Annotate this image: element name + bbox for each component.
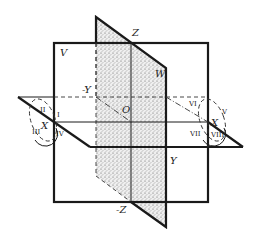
label-y: Y [170, 155, 178, 166]
label-octant-VIII: VIII [210, 131, 225, 139]
label-x-left: X [40, 120, 49, 131]
label-octant-II: II [40, 106, 46, 114]
label-neg-z: -Z [116, 204, 127, 215]
label-w-plane: W [155, 68, 166, 79]
label-octant-V: V [221, 108, 228, 116]
label-z: Z [131, 27, 140, 38]
label-neg-y: -Y [82, 84, 92, 95]
label-origin: O [122, 104, 130, 115]
label-octant-VII: VII [189, 130, 201, 138]
label-octant-III: III [32, 128, 41, 136]
label-v-plane: V [60, 47, 69, 58]
label-octant-IV: IV [56, 130, 65, 138]
label-octant-VI: VI [188, 100, 197, 108]
octant-diagram: V W Z -Z Y -Y O X X I II III IV V VI VII… [0, 0, 255, 243]
label-x-right: X [210, 117, 219, 128]
label-octant-I: I [57, 111, 60, 119]
